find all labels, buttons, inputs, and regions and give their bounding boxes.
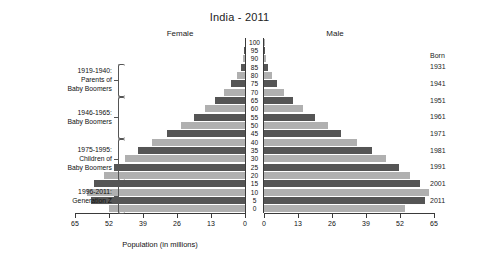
annotation-line: 1996-2011: <box>2 187 112 196</box>
bar-right-age-95 <box>264 47 265 54</box>
bar-right-age-80 <box>264 72 272 79</box>
x-tick <box>332 213 333 218</box>
age-label-5: 5 <box>245 197 264 204</box>
x-tick <box>434 213 435 218</box>
age-label-35: 35 <box>245 147 264 154</box>
annotation-line: 1975-1995: <box>2 145 112 154</box>
bar-left-age-35 <box>138 147 245 154</box>
x-tick-label-female-65: 65 <box>63 220 87 227</box>
age-label-55: 55 <box>245 114 264 121</box>
age-label-45: 45 <box>245 130 264 137</box>
annotation-bracket <box>118 97 125 139</box>
x-tick-label-male-39: 39 <box>354 220 378 227</box>
annotation-text: 1996-2011:Generation Z <box>2 187 112 205</box>
annotation-text: 1946-1965:Baby Boomers <box>2 108 112 126</box>
bar-left-age-40 <box>152 139 245 146</box>
x-axis-female-line <box>75 213 245 214</box>
x-tick-label-male-13: 13 <box>286 220 310 227</box>
x-tick <box>245 213 246 218</box>
annotation-line: 1946-1965: <box>2 108 112 117</box>
bar-right-age-65 <box>264 97 293 104</box>
born-year-2001: 2001 <box>430 180 470 187</box>
age-label-30: 30 <box>245 155 264 162</box>
age-label-65: 65 <box>245 97 264 104</box>
born-year-2011: 2011 <box>430 197 470 204</box>
age-label-20: 20 <box>245 172 264 179</box>
age-label-15: 15 <box>245 180 264 187</box>
age-label-60: 60 <box>245 105 264 112</box>
bar-right-age-0 <box>264 205 405 212</box>
bar-right-age-20 <box>264 172 410 179</box>
bar-right-age-85 <box>264 64 268 71</box>
age-label-70: 70 <box>245 89 264 96</box>
male-bars <box>264 38 434 213</box>
bar-right-age-30 <box>264 155 386 162</box>
annotation-text: 1975-1995:Children ofBaby Boomers <box>2 145 112 172</box>
annotation-bracket-tick <box>114 80 118 81</box>
x-tick-label-male-0: 0 <box>252 220 276 227</box>
born-year-1961: 1961 <box>430 113 470 120</box>
born-year-1991: 1991 <box>430 163 470 170</box>
age-label-95: 95 <box>245 47 264 54</box>
x-axis-male <box>264 213 434 219</box>
x-axis-female <box>75 213 245 219</box>
born-year-1941: 1941 <box>430 80 470 87</box>
age-label-10: 10 <box>245 189 264 196</box>
age-label-0: 0 <box>245 205 264 212</box>
annotation-line: Parents of <box>2 75 112 84</box>
bar-right-age-60 <box>264 105 303 112</box>
male-column-header: Male <box>305 29 365 38</box>
age-label-85: 85 <box>245 64 264 71</box>
x-tick <box>211 213 212 218</box>
annotation-line: Generation Z <box>2 196 112 205</box>
bar-right-age-70 <box>264 89 284 96</box>
female-column-header: Female <box>150 29 210 38</box>
bar-right-age-15 <box>264 180 420 187</box>
x-tick-label-male-26: 26 <box>320 220 344 227</box>
chart-title: India - 2011 <box>0 11 479 23</box>
age-label-75: 75 <box>245 80 264 87</box>
annotation-text: 1919-1940:Parents ofBaby Boomers <box>2 66 112 93</box>
x-tick-label-male-65: 65 <box>422 220 446 227</box>
annotation-bracket <box>118 139 125 181</box>
x-tick <box>298 213 299 218</box>
bar-right-age-25 <box>264 164 399 171</box>
bar-right-age-75 <box>264 80 277 87</box>
bar-left-age-25 <box>114 164 245 171</box>
x-tick <box>264 213 265 218</box>
bar-left-age-65 <box>215 97 245 104</box>
x-tick <box>366 213 367 218</box>
born-year-1931: 1931 <box>430 63 470 70</box>
annotation-bracket <box>118 181 125 214</box>
annotation-line: Baby Boomers <box>2 163 112 172</box>
bar-left-age-55 <box>194 114 245 121</box>
x-tick-label-female-52: 52 <box>97 220 121 227</box>
born-year-1981: 1981 <box>430 147 470 154</box>
bar-left-age-5 <box>91 197 245 204</box>
annotation-bracket-tick <box>114 196 118 197</box>
x-axis-caption: Population (in millions) <box>55 240 265 249</box>
x-tick <box>75 213 76 218</box>
age-label-80: 80 <box>245 72 264 79</box>
annotation-line: 1919-1940: <box>2 66 112 75</box>
x-tick-label-female-13: 13 <box>199 220 223 227</box>
x-axis-male-line <box>264 213 434 214</box>
annotation-bracket <box>118 64 125 97</box>
annotation-line: Baby Boomers <box>2 84 112 93</box>
bar-right-age-10 <box>264 189 429 196</box>
annotation-line: Baby Boomers <box>2 117 112 126</box>
born-year-1951: 1951 <box>430 97 470 104</box>
age-label-25: 25 <box>245 164 264 171</box>
annotation-bracket-tick <box>114 159 118 160</box>
bar-left-age-0 <box>109 205 245 212</box>
bar-left-age-15 <box>94 180 245 187</box>
x-tick-label-male-52: 52 <box>388 220 412 227</box>
bar-right-age-55 <box>264 114 315 121</box>
age-label-90: 90 <box>245 55 264 62</box>
bar-right-age-5 <box>264 197 425 204</box>
age-label-40: 40 <box>245 139 264 146</box>
x-tick <box>400 213 401 218</box>
bar-left-age-70 <box>224 89 245 96</box>
bar-left-age-80 <box>237 72 245 79</box>
bar-right-age-40 <box>264 139 357 146</box>
